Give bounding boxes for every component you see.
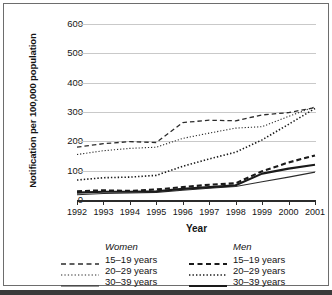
legend-group-title-women: Women xyxy=(105,241,200,253)
x-tick xyxy=(103,201,104,205)
legend-label-women-15-19: 15–19 years xyxy=(105,254,157,265)
solid-thick-line-icon xyxy=(188,277,228,287)
x-tick xyxy=(183,201,184,205)
series-lines-layer xyxy=(77,24,316,202)
legend-column-men: Men 15–19 years 20–29 yea xyxy=(188,241,328,287)
legend-item-men-20-29: 20–29 years xyxy=(188,265,328,276)
x-tick xyxy=(315,201,316,205)
legend-column-women: Women 15–19 years 20–29 y xyxy=(60,241,200,287)
legend-label-men-20-29: 20–29 years xyxy=(233,265,285,276)
x-tick xyxy=(209,201,210,205)
legend-label-women-20-29: 20–29 years xyxy=(105,265,157,276)
legend-item-women-15-19: 15–19 years xyxy=(60,254,200,265)
dotted-thick-line-icon xyxy=(188,266,228,276)
legend-item-women-30-39: 30–39 years xyxy=(60,276,200,287)
x-tick-label: 2001 xyxy=(298,207,332,217)
dotted-thin-line-icon xyxy=(60,266,100,276)
x-tick xyxy=(262,201,263,205)
legend-item-women-20-29: 20–29 years xyxy=(60,265,200,276)
x-axis-line xyxy=(77,200,316,202)
plot-canvas: 1992199319941995199619971998199920002001 xyxy=(77,24,316,202)
x-axis-title: Year xyxy=(77,223,316,234)
dashed-thick-line-icon xyxy=(188,255,228,265)
legend-item-men-30-39: 30–39 years xyxy=(188,276,328,287)
series-line xyxy=(77,108,315,148)
series-line xyxy=(77,155,315,191)
x-tick xyxy=(289,201,290,205)
legend-label-men-30-39: 30–39 years xyxy=(233,276,285,287)
figure-frame: Notification per 100,000 population 0100… xyxy=(3,3,329,286)
chart-legend: Women 15–19 years 20–29 y xyxy=(16,241,318,287)
legend-label-men-15-19: 15–19 years xyxy=(233,254,285,265)
x-tick xyxy=(156,201,157,205)
x-tick xyxy=(236,201,237,205)
x-tick xyxy=(130,201,131,205)
x-tick xyxy=(77,201,78,205)
plot-area: 1992199319941995199619971998199920002001 xyxy=(77,24,316,202)
legend-group-title-men: Men xyxy=(233,241,328,253)
legend-item-men-15-19: 15–19 years xyxy=(188,254,328,265)
y-axis-title: Notification per 100,000 population xyxy=(27,21,38,201)
dashed-thin-line-icon xyxy=(60,255,100,265)
figure-container: Notification per 100,000 population 0100… xyxy=(0,0,332,295)
figure-bottom-rule xyxy=(0,290,332,295)
legend-label-women-30-39: 30–39 years xyxy=(105,276,157,287)
solid-thin-line-icon xyxy=(60,277,100,287)
